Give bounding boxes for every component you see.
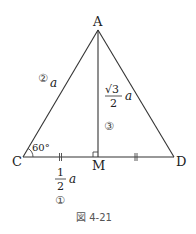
right-angle-mark	[93, 152, 98, 157]
cm-denominator: 2	[57, 180, 64, 193]
triangle-figure: A C M D 60° ② a √3 2 a ③ 1 2 a ① 図 4-21	[0, 0, 196, 234]
angle-label-c: 60°	[32, 142, 50, 153]
cm-value: a	[69, 172, 76, 186]
marker-3: ③	[104, 120, 114, 133]
marker-2: ②	[38, 72, 48, 85]
am-denominator: 2	[110, 97, 117, 110]
point-label-c: C	[12, 154, 22, 169]
am-value: a	[125, 89, 132, 103]
figure-caption: 図 4-21	[76, 212, 112, 223]
side-ca	[23, 30, 98, 157]
point-label-a: A	[92, 14, 103, 29]
point-label-d: D	[176, 154, 186, 169]
am-radical: √3	[105, 83, 119, 96]
side-ca-value: a	[50, 76, 57, 90]
point-label-m: M	[92, 158, 105, 173]
cm-numerator: 1	[57, 166, 64, 179]
marker-1: ①	[55, 194, 65, 207]
